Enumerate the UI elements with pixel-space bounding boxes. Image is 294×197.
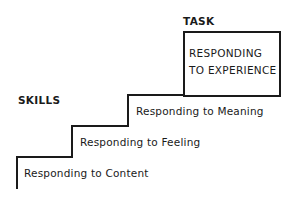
step-2-tread (71, 125, 128, 127)
step-3-tread (127, 94, 184, 96)
task-box: RESPONDING TO EXPERIENCE (183, 31, 281, 97)
step-1-tread (16, 156, 73, 158)
task-heading: TASK (183, 15, 214, 27)
step-1-riser (16, 157, 18, 189)
task-box-line-1: RESPONDING (189, 47, 262, 59)
step-3-riser (127, 95, 129, 127)
task-box-line-2: TO EXPERIENCE (189, 64, 277, 76)
step-label-feeling: Responding to Feeling (80, 136, 200, 148)
step-label-content: Responding to Content (24, 167, 149, 179)
step-label-meaning: Responding to Meaning (136, 105, 264, 117)
step-2-riser (71, 126, 73, 158)
skills-heading: SKILLS (18, 94, 60, 106)
